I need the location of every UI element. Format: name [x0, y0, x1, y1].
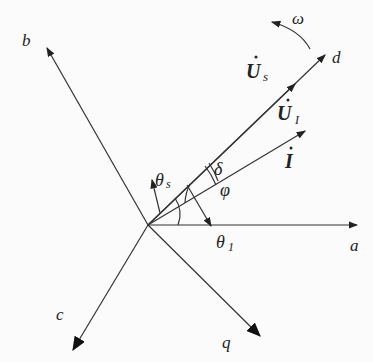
label-I: I [284, 147, 294, 173]
label-delta: δ [214, 159, 223, 179]
theta-1-arrow [187, 185, 211, 226]
label-UI: U I [277, 99, 300, 128]
axis-b [47, 48, 148, 225]
axis-q [148, 225, 260, 336]
svg-text:θ: θ [155, 170, 164, 190]
dot-accent [255, 56, 258, 59]
svg-text:I: I [294, 113, 300, 127]
label-d: d [332, 48, 341, 67]
label-c: c [56, 305, 64, 324]
svg-text:U: U [246, 60, 262, 82]
phasor-I-arrow [148, 131, 305, 225]
svg-text:θ: θ [216, 232, 225, 252]
svg-text:s: s [166, 177, 171, 191]
label-b: b [22, 31, 31, 50]
svg-text:U: U [277, 102, 293, 124]
axis-c [73, 225, 148, 350]
phasor-diagram: b d a c q ω U s U I I δ φ θ s θ 1 [0, 0, 373, 362]
label-theta-1: θ 1 [216, 232, 234, 254]
svg-text:s: s [263, 69, 268, 84]
svg-text:1: 1 [228, 240, 234, 254]
phasor-UI-arrow [148, 84, 295, 225]
svg-text:I: I [284, 150, 294, 172]
rotation-arrow [272, 22, 310, 49]
label-a: a [350, 236, 359, 255]
label-omega: ω [292, 9, 304, 28]
label-q: q [222, 333, 231, 352]
label-Us: U s [246, 56, 268, 85]
label-theta-s: θ s [155, 170, 171, 191]
label-phi: φ [220, 180, 230, 200]
angle-arc-inner [175, 198, 180, 225]
